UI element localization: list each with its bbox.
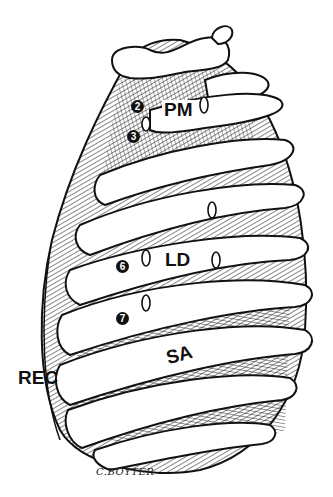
rib-number-2: 2 <box>131 100 144 113</box>
label-latissimus-dorsi: LD <box>163 250 192 269</box>
rib-number-6: 6 <box>116 260 129 273</box>
rib-number-3: 3 <box>127 130 140 143</box>
artist-signature: C.BOYTER <box>96 466 154 477</box>
rib-number-7: 7 <box>116 312 129 325</box>
label-pectoralis-minor: PM <box>162 100 195 119</box>
label-rectus: REC <box>16 368 60 387</box>
